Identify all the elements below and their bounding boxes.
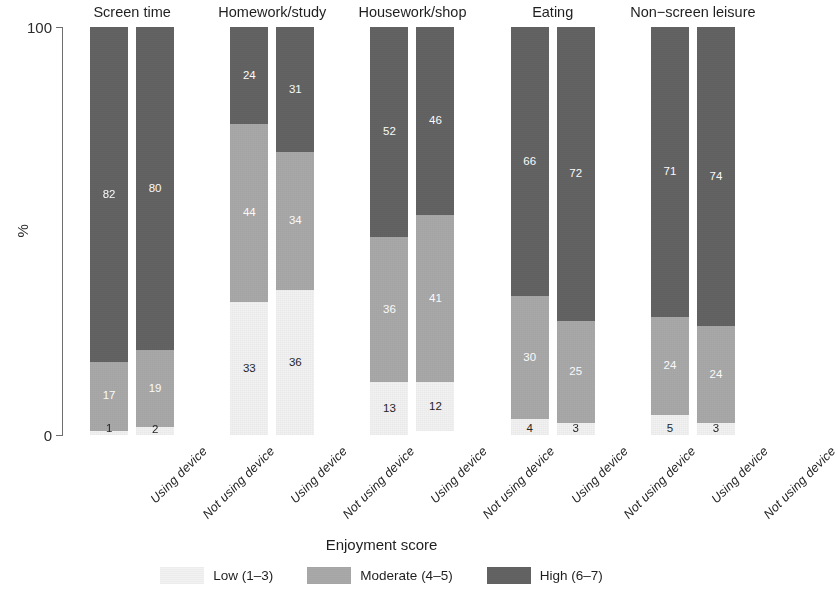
segment-value-label: 52 — [383, 126, 396, 138]
segment-value-label: 36 — [289, 357, 302, 369]
panel-bars: 6630472253 — [483, 27, 623, 435]
legend-label: Low (1–3) — [213, 568, 273, 583]
segment-value-label: 2 — [152, 424, 158, 436]
segment-value-label: 24 — [663, 360, 676, 372]
segment-value-label: 31 — [289, 84, 302, 96]
bar-segment-low: 5 — [651, 415, 689, 435]
segment-value-label: 46 — [429, 115, 442, 127]
bar-segment-high: 46 — [416, 27, 454, 215]
bar-using-device[interactable]: 523613 — [370, 27, 408, 435]
panel-housework-shop: Housework/shopUsing deviceNot using devi… — [342, 0, 482, 530]
bar-segment-mod: 34 — [276, 152, 314, 289]
segment-value-label: 1 — [106, 423, 112, 435]
y-tick-label-0: 0 — [8, 427, 52, 444]
legend-swatch-low — [160, 567, 204, 584]
panel-title: Screen time — [62, 4, 202, 20]
panel-title: Housework/shop — [342, 4, 482, 20]
panel-bars: 7124574243 — [623, 27, 763, 435]
bar-not-using-device[interactable]: 464112 — [416, 27, 454, 435]
panel-bars: 244433313436 — [202, 27, 342, 435]
bar-segment-high: 66 — [511, 27, 549, 296]
bar-not-using-device[interactable]: 80192 — [136, 27, 174, 435]
panel-title: Homework/study — [202, 4, 342, 20]
legend-item-mod[interactable]: Moderate (4–5) — [307, 567, 452, 584]
bar-segment-mod: 41 — [416, 215, 454, 382]
bar-segment-high: 80 — [136, 27, 174, 350]
x-tick-label: Using device — [428, 444, 490, 506]
legend-label: Moderate (4–5) — [360, 568, 452, 583]
segment-value-label: 19 — [149, 383, 162, 395]
x-tick-label: Using device — [709, 444, 771, 506]
bar-segment-mod: 30 — [511, 296, 549, 418]
segment-value-label: 82 — [103, 189, 116, 201]
bar-using-device[interactable]: 244433 — [230, 27, 268, 435]
x-tick-label: Not using device — [761, 444, 838, 522]
bar-segment-low: 3 — [697, 423, 735, 435]
segment-value-label: 41 — [429, 293, 442, 305]
legend: Low (1–3)Moderate (4–5)High (6–7) — [0, 567, 763, 584]
bar-segment-low: 12 — [416, 382, 454, 431]
bar-segment-low: 3 — [557, 423, 595, 435]
bar-segment-high: 82 — [90, 27, 128, 362]
bar-segment-low: 2 — [136, 427, 174, 435]
segment-value-label: 72 — [569, 168, 582, 180]
legend-item-low[interactable]: Low (1–3) — [160, 567, 273, 584]
panel-homework-study: Homework/studyUsing deviceNot using devi… — [202, 0, 342, 530]
panel-title: Eating — [483, 4, 623, 20]
segment-value-label: 24 — [243, 70, 256, 82]
bar-not-using-device[interactable]: 313436 — [276, 27, 314, 435]
bar-using-device[interactable]: 66304 — [511, 27, 549, 435]
bar-segment-high: 74 — [697, 27, 735, 326]
bar-segment-high: 31 — [276, 27, 314, 152]
bar-segment-low: 1 — [90, 431, 128, 435]
y-tick-label-100: 100 — [8, 19, 52, 36]
segment-value-label: 66 — [523, 156, 536, 168]
segment-value-label: 33 — [243, 363, 256, 375]
segment-value-label: 30 — [523, 352, 536, 364]
bar-using-device[interactable]: 82171 — [90, 27, 128, 435]
legend-label: High (6–7) — [540, 568, 603, 583]
x-tick-label: Using device — [568, 444, 630, 506]
segment-value-label: 12 — [429, 401, 442, 413]
segment-value-label: 17 — [103, 390, 116, 402]
bar-not-using-device[interactable]: 72253 — [557, 27, 595, 435]
bar-not-using-device[interactable]: 74243 — [697, 27, 735, 435]
bar-segment-mod: 25 — [557, 321, 595, 423]
panel-eating: EatingUsing deviceNot using device663047… — [483, 0, 623, 530]
bar-segment-mod: 24 — [697, 326, 735, 423]
segment-value-label: 44 — [243, 207, 256, 219]
segment-value-label: 3 — [713, 423, 719, 435]
segment-value-label: 3 — [572, 423, 578, 435]
segment-value-label: 4 — [526, 423, 532, 435]
x-tick-label: Using device — [148, 444, 210, 506]
legend-item-high[interactable]: High (6–7) — [487, 567, 603, 584]
bar-segment-low: 4 — [511, 419, 549, 435]
segment-value-label: 71 — [663, 166, 676, 178]
y-axis-label: % — [14, 211, 31, 251]
segment-value-label: 80 — [149, 183, 162, 195]
bar-segment-mod: 24 — [651, 317, 689, 415]
segment-value-label: 5 — [667, 423, 673, 435]
segment-value-label: 24 — [709, 369, 722, 381]
bar-segment-mod: 36 — [370, 237, 408, 382]
segment-value-label: 25 — [569, 366, 582, 378]
legend-swatch-high — [487, 567, 531, 584]
x-tick-label: Using device — [288, 444, 350, 506]
bar-segment-high: 24 — [230, 27, 268, 124]
bar-segment-low: 13 — [370, 382, 408, 435]
panel-title: Non−screen leisure — [623, 4, 763, 20]
segment-value-label: 36 — [383, 304, 396, 316]
bar-segment-low: 33 — [230, 302, 268, 435]
segment-value-label: 34 — [289, 215, 302, 227]
bar-segment-high: 52 — [370, 27, 408, 237]
segment-value-label: 74 — [709, 171, 722, 183]
bar-using-device[interactable]: 71245 — [651, 27, 689, 435]
legend-title: Enjoyment score — [0, 536, 763, 553]
bar-segment-mod: 19 — [136, 350, 174, 427]
segment-value-label: 13 — [383, 403, 396, 415]
bar-segment-high: 72 — [557, 27, 595, 321]
bar-segment-low: 36 — [276, 290, 314, 435]
panel-bars: 523613464112 — [342, 27, 482, 435]
bar-segment-mod: 44 — [230, 124, 268, 302]
